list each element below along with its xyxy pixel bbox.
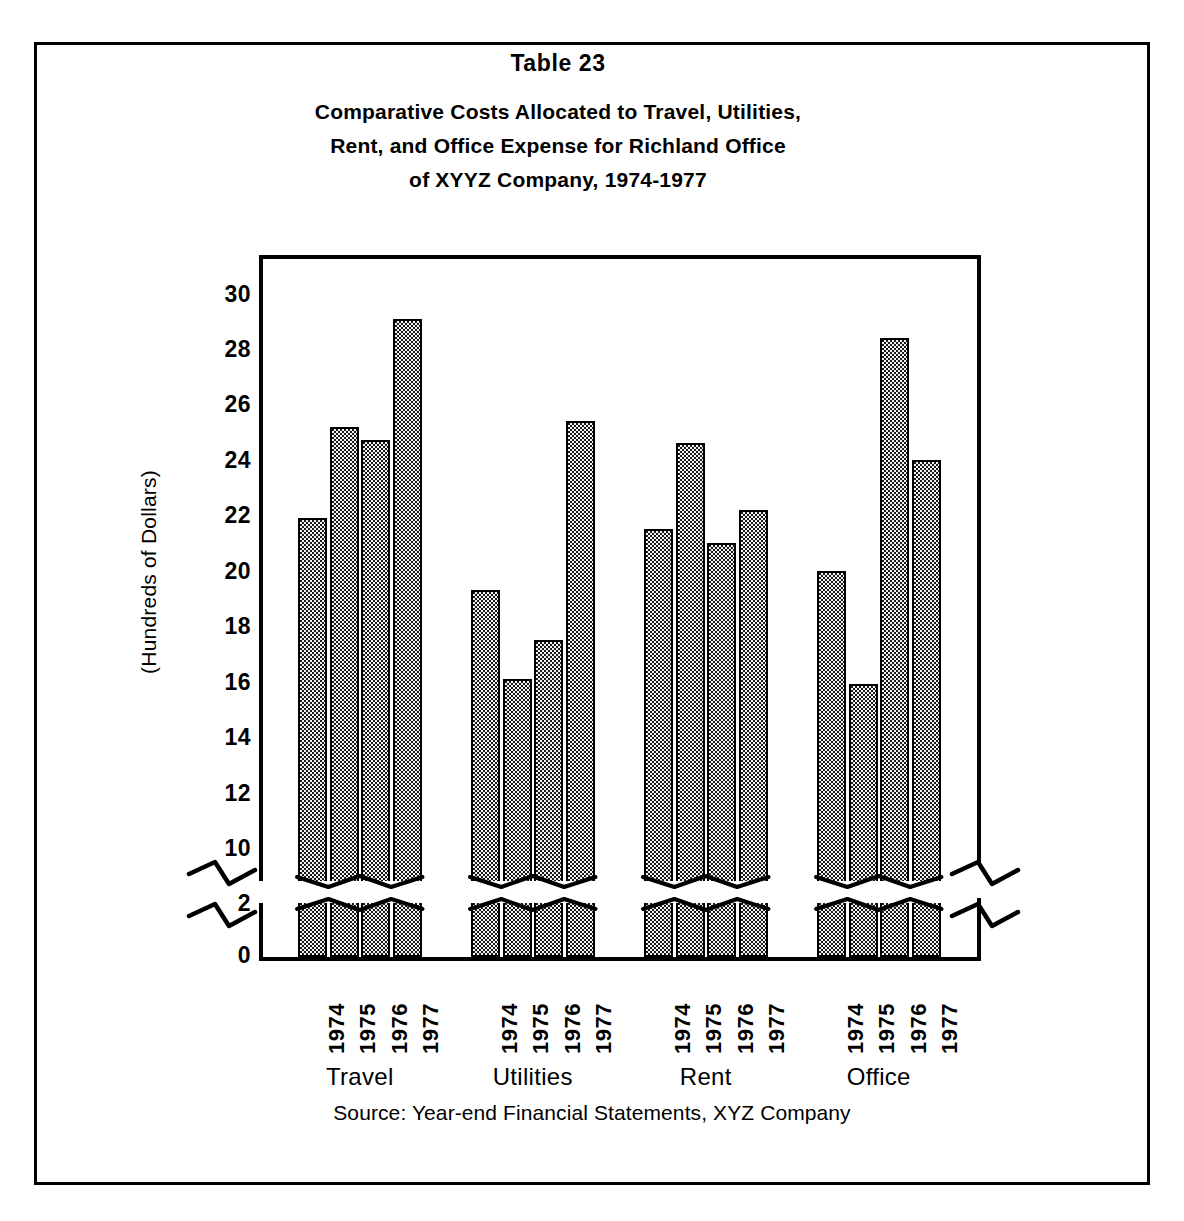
year-label: 1977 <box>418 954 440 1054</box>
bar-upper <box>361 440 390 881</box>
year-label: 1975 <box>701 954 723 1054</box>
year-label: 1975 <box>874 954 896 1054</box>
bar-upper <box>330 427 359 881</box>
bar-upper <box>880 338 909 881</box>
bar-upper <box>707 543 736 881</box>
figure-container: Table 23 Comparative Costs Allocated to … <box>0 0 1184 1221</box>
bar-lower-stub <box>503 903 532 957</box>
chart-title-line-1: Comparative Costs Allocated to Travel, U… <box>0 95 1116 129</box>
bar-lower-stub <box>566 903 595 957</box>
bar-upper <box>566 421 595 881</box>
bar-upper <box>676 443 705 881</box>
bar-upper <box>817 571 846 881</box>
x-axis-year-labels: 1974197519761977197419751976197719741975… <box>259 962 981 1062</box>
y-axis-tick-label: 12 <box>197 782 251 805</box>
bar-lower-stub <box>330 903 359 957</box>
bar-lower-stub <box>534 903 563 957</box>
group-label: Office <box>779 1063 979 1091</box>
year-label: 1974 <box>670 954 692 1054</box>
year-label: 1976 <box>906 954 928 1054</box>
bar-lower-stub <box>298 903 327 957</box>
bar-lower-stub <box>817 903 846 957</box>
x-axis-group-labels: TravelUtilitiesRentOffice <box>259 1063 981 1097</box>
y-axis-tick-label: 16 <box>197 671 251 694</box>
bar-lower-stub <box>471 903 500 957</box>
y-axis-tick-label: 26 <box>197 393 251 416</box>
y-axis-tick-label: 30 <box>197 283 251 306</box>
group-label: Rent <box>606 1063 806 1091</box>
bar-lower-stub <box>361 903 390 957</box>
group-label: Travel <box>260 1063 460 1091</box>
y-axis-tick-label: 14 <box>197 726 251 749</box>
bar-upper <box>393 319 422 881</box>
bar-upper <box>503 679 532 881</box>
y-axis-break-marks-right <box>948 830 1028 965</box>
year-label: 1974 <box>324 954 346 1054</box>
year-label: 1977 <box>764 954 786 1054</box>
table-number-caption: Table 23 <box>0 50 1116 77</box>
chart-title-line-3: of XYYZ Company, 1974-1977 <box>0 163 1116 197</box>
bar-upper <box>534 640 563 881</box>
year-label: 1977 <box>937 954 959 1054</box>
chart-title-line-2: Rent, and Office Expense for Richland Of… <box>0 129 1116 163</box>
y-axis-tick-label: 24 <box>197 449 251 472</box>
bar-lower-stub <box>849 903 878 957</box>
bar-upper <box>471 590 500 881</box>
year-label: 1976 <box>387 954 409 1054</box>
bar-lower-stub <box>644 903 673 957</box>
year-label: 1976 <box>560 954 582 1054</box>
y-axis-tick-label: 20 <box>197 560 251 583</box>
bar-upper <box>849 684 878 881</box>
bar-lower-stub <box>880 903 909 957</box>
group-label: Utilities <box>433 1063 633 1091</box>
bar-lower-stub <box>676 903 705 957</box>
bar-upper <box>912 460 941 881</box>
year-label: 1975 <box>528 954 550 1054</box>
year-label: 1976 <box>733 954 755 1054</box>
bar-upper <box>644 529 673 881</box>
chart-title: Comparative Costs Allocated to Travel, U… <box>0 95 1116 197</box>
bar-lower-stub <box>393 903 422 957</box>
source-note: Source: Year-end Financial Statements, X… <box>34 1101 1150 1125</box>
y-axis-tick-label: 18 <box>197 615 251 638</box>
y-axis-title: (Hundreds of Dollars) <box>137 407 161 737</box>
year-label: 1974 <box>497 954 519 1054</box>
bar-upper <box>739 510 768 881</box>
y-axis-tick-label: 22 <box>197 504 251 527</box>
y-axis-break-marks <box>185 830 265 965</box>
year-label: 1977 <box>591 954 613 1054</box>
y-axis-tick-label: 28 <box>197 338 251 361</box>
bar-lower-stub <box>707 903 736 957</box>
year-label: 1975 <box>355 954 377 1054</box>
bars-layer <box>259 255 981 961</box>
bar-upper <box>298 518 327 881</box>
bar-lower-stub <box>912 903 941 957</box>
bar-lower-stub <box>739 903 768 957</box>
year-label: 1974 <box>843 954 865 1054</box>
